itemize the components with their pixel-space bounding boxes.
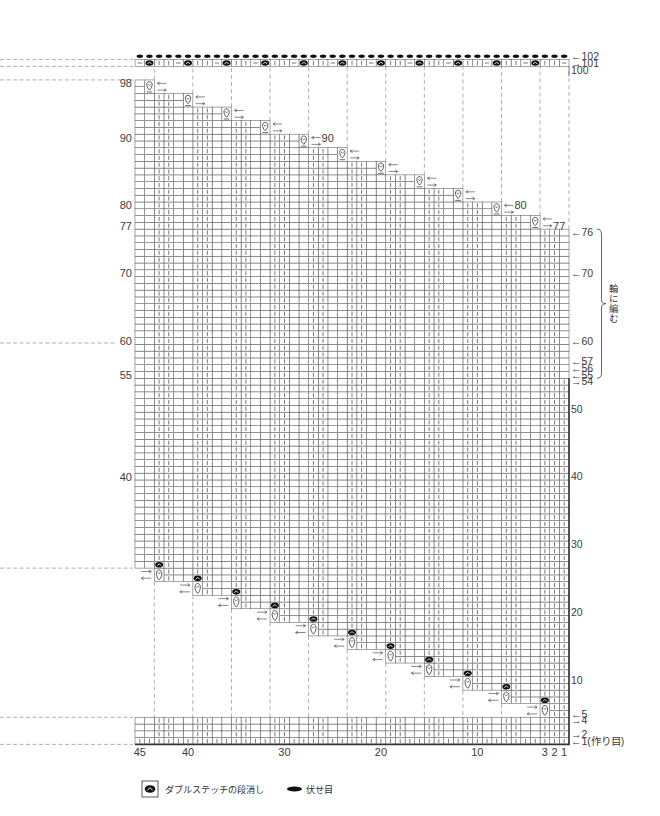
grid-cell	[492, 249, 502, 256]
grid-cell	[260, 731, 270, 738]
grid-cell	[521, 534, 531, 541]
grid-cell	[328, 534, 338, 541]
grid-cell	[559, 331, 569, 338]
grid-cell	[289, 141, 299, 148]
grid-cell	[405, 182, 415, 189]
grid-cell	[135, 297, 145, 304]
grid-cell	[299, 541, 309, 548]
grid-cell	[453, 331, 463, 338]
grid-cell	[444, 473, 454, 480]
grid-cell	[212, 155, 222, 162]
grid-cell	[174, 256, 184, 263]
grid-cell	[299, 731, 309, 738]
grid-cell	[145, 453, 155, 460]
grid-cell	[444, 548, 454, 555]
grid-cell	[289, 500, 299, 507]
grid-cell	[174, 270, 184, 277]
grid-cell	[251, 466, 261, 473]
row-label-right: 100	[571, 64, 589, 76]
grid-cell	[299, 527, 309, 534]
grid-cell	[212, 161, 222, 168]
grid-cell	[299, 344, 309, 351]
grid-cell	[289, 609, 299, 616]
grid-cell	[260, 182, 270, 189]
grid-cell	[212, 127, 222, 134]
grid-cell	[444, 256, 454, 263]
grid-cell	[530, 331, 540, 338]
grid-cell	[415, 236, 425, 243]
grid-cell	[492, 351, 502, 358]
grid-cell	[530, 568, 540, 575]
grid-cell	[183, 243, 193, 250]
grid-cell	[174, 310, 184, 317]
grid-cell	[222, 127, 232, 134]
bind-off-icon	[378, 55, 384, 58]
grid-cell	[328, 616, 338, 623]
grid-cell	[521, 365, 531, 372]
grid-cell	[366, 338, 376, 345]
column-number-label: 45	[134, 746, 146, 758]
grid-cell	[415, 365, 425, 372]
grid-cell	[212, 175, 222, 182]
grid-cell	[492, 656, 502, 663]
grid-cell	[521, 731, 531, 738]
grid-cell	[492, 453, 502, 460]
grid-cell	[366, 534, 376, 541]
grid-cell	[174, 141, 184, 148]
grid-cell	[376, 229, 386, 236]
grid-cell	[405, 399, 415, 406]
grid-cell	[405, 243, 415, 250]
grid-cell	[183, 507, 193, 514]
legend-item-double-stitch-close: ダブルステッチの段消し	[142, 781, 264, 797]
grid-cell	[482, 385, 492, 392]
grid-cell	[328, 283, 338, 290]
grid-cell	[299, 616, 309, 623]
grid-cell	[405, 534, 415, 541]
bind-off-icon	[301, 55, 307, 58]
grid-cell	[212, 202, 222, 209]
grid-cell	[183, 324, 193, 331]
grid-cell	[482, 256, 492, 263]
grid-cell	[135, 344, 145, 351]
grid-cell	[453, 473, 463, 480]
grid-cell	[521, 541, 531, 548]
grid-cell	[135, 731, 145, 738]
grid-cell	[405, 297, 415, 304]
grid-cell	[492, 527, 502, 534]
grid-cell	[492, 277, 502, 284]
grid-cell	[135, 141, 145, 148]
grid-cell	[212, 297, 222, 304]
grid-cell	[183, 297, 193, 304]
grid-cell	[482, 541, 492, 548]
row-label-left: 55	[120, 369, 132, 381]
grid-cell	[338, 582, 348, 589]
grid-cell	[444, 195, 454, 202]
grid-cell	[376, 216, 386, 223]
grid-cell	[145, 127, 155, 134]
grid-cell	[135, 399, 145, 406]
grid-cell	[135, 466, 145, 473]
grid-cell	[366, 297, 376, 304]
grid-cell	[482, 283, 492, 290]
grid-cell	[521, 588, 531, 595]
grid-cell	[376, 717, 386, 724]
grid-cell	[453, 466, 463, 473]
grid-cell	[444, 419, 454, 426]
grid-cell	[415, 243, 425, 250]
grid-cell	[530, 677, 540, 684]
grid-cell	[444, 324, 454, 331]
grid-cell	[135, 161, 145, 168]
row-label-right: →54	[571, 375, 593, 387]
grid-cell	[328, 595, 338, 602]
grid-cell	[299, 304, 309, 311]
grid-cell	[289, 616, 299, 623]
grid-cell	[251, 331, 261, 338]
grid-cell	[453, 202, 463, 209]
grid-cell	[376, 412, 386, 419]
grid-cell	[260, 195, 270, 202]
grid-cell	[521, 412, 531, 419]
grid-cell	[338, 338, 348, 345]
grid-cell	[482, 209, 492, 216]
grid-cell	[145, 412, 155, 419]
grid-cell	[444, 656, 454, 663]
